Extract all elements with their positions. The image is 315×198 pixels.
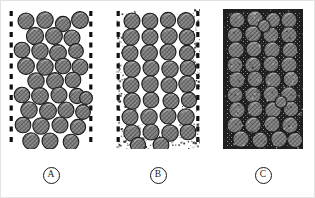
caption-ring-b: B (150, 167, 167, 184)
panel-caption-a: A (41, 167, 61, 184)
panel-b (116, 9, 200, 149)
panel-c (223, 9, 303, 149)
caption-ring-c: C (255, 167, 272, 184)
panel-a (9, 9, 93, 149)
panel-caption-b: B (148, 167, 168, 184)
panel-caption-c: C (253, 167, 273, 184)
caption-ring-a: A (43, 167, 60, 184)
figure-container: ABC (0, 0, 315, 198)
